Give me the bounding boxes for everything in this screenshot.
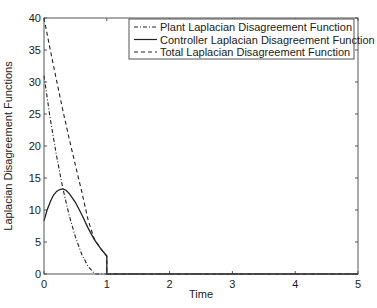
x-tick-label: 4 (292, 278, 298, 290)
y-axis-label: Laplacian Disagreement Functions (2, 61, 14, 231)
y-tick-label: 20 (29, 140, 41, 152)
y-tick-label: 25 (29, 108, 41, 120)
x-tick-label: 0 (41, 278, 47, 290)
legend: Plant Laplacian Disagreement Function Co… (129, 19, 375, 59)
y-tick-label: 5 (35, 236, 41, 248)
y-tick-label: 15 (29, 172, 41, 184)
legend-item-controller: Controller Laplacian Disagreement Functi… (134, 34, 375, 46)
y-tick-label: 35 (29, 44, 41, 56)
x-tick-label: 3 (229, 278, 235, 290)
line-chart: 0510152025303540 012345 Time Laplacian D… (0, 0, 377, 308)
legend-label-plant: Plant Laplacian Disagreement Function (160, 21, 352, 33)
legend-item-total: Total Laplacian Disagreement Function (134, 46, 350, 58)
y-tick-label: 10 (29, 204, 41, 216)
x-tick-label: 5 (355, 278, 361, 290)
y-tick-label: 40 (29, 12, 41, 24)
y-tick-label: 30 (29, 76, 41, 88)
legend-item-plant: Plant Laplacian Disagreement Function (134, 21, 352, 33)
legend-label-total: Total Laplacian Disagreement Function (160, 46, 350, 58)
x-tick-label: 2 (167, 278, 173, 290)
legend-label-controller: Controller Laplacian Disagreement Functi… (160, 34, 375, 46)
x-axis-label: Time (189, 288, 213, 300)
x-tick-label: 1 (104, 278, 110, 290)
